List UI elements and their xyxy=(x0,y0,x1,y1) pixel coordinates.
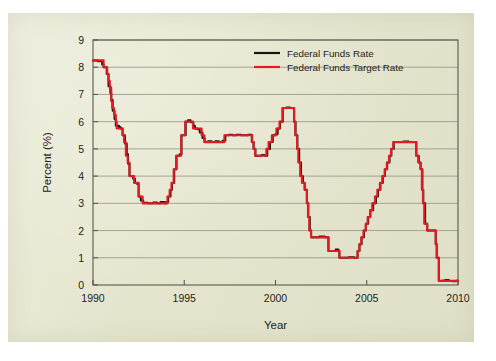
chart-legend: Federal Funds RateFederal Funds Target R… xyxy=(254,48,404,73)
series-line-federal-funds-rate xyxy=(93,60,458,281)
legend-label-1: Federal Funds Target Rate xyxy=(287,62,404,73)
axes xyxy=(93,40,458,285)
ytick-label-5: 5 xyxy=(78,143,84,155)
ytick-label-7: 7 xyxy=(78,88,84,100)
x-axis-tick-labels: 19901995200020052010 xyxy=(81,292,470,304)
plot-frame xyxy=(93,40,458,285)
y-axis-title: Percent (%) xyxy=(41,132,53,193)
xtick-label-1995: 1995 xyxy=(173,292,197,304)
xtick-label-2010: 2010 xyxy=(446,292,470,304)
xtick-label-2005: 2005 xyxy=(355,292,379,304)
y-axis-tick-labels: 0123456789 xyxy=(78,34,84,291)
page-background: 19901995200020052010 0123456789 Year Per… xyxy=(0,0,496,361)
ytick-label-0: 0 xyxy=(78,279,84,291)
ytick-label-3: 3 xyxy=(78,197,84,209)
data-series xyxy=(93,60,458,281)
ytick-label-6: 6 xyxy=(78,116,84,128)
xtick-label-2000: 2000 xyxy=(264,292,288,304)
legend-label-0: Federal Funds Rate xyxy=(287,48,374,59)
tick-marks xyxy=(93,40,458,285)
gridlines xyxy=(93,40,458,258)
chart-figure: 19901995200020052010 0123456789 Year Per… xyxy=(8,13,474,342)
ytick-label-4: 4 xyxy=(78,170,84,182)
xtick-label-1990: 1990 xyxy=(81,292,105,304)
ytick-label-1: 1 xyxy=(78,252,84,264)
ytick-label-9: 9 xyxy=(78,34,84,46)
series-line-federal-funds-target-rate xyxy=(93,60,458,281)
ytick-label-8: 8 xyxy=(78,61,84,73)
federal-funds-rate-chart: 19901995200020052010 0123456789 Year Per… xyxy=(8,13,474,342)
x-axis-title: Year xyxy=(264,319,287,331)
ytick-label-2: 2 xyxy=(78,225,84,237)
